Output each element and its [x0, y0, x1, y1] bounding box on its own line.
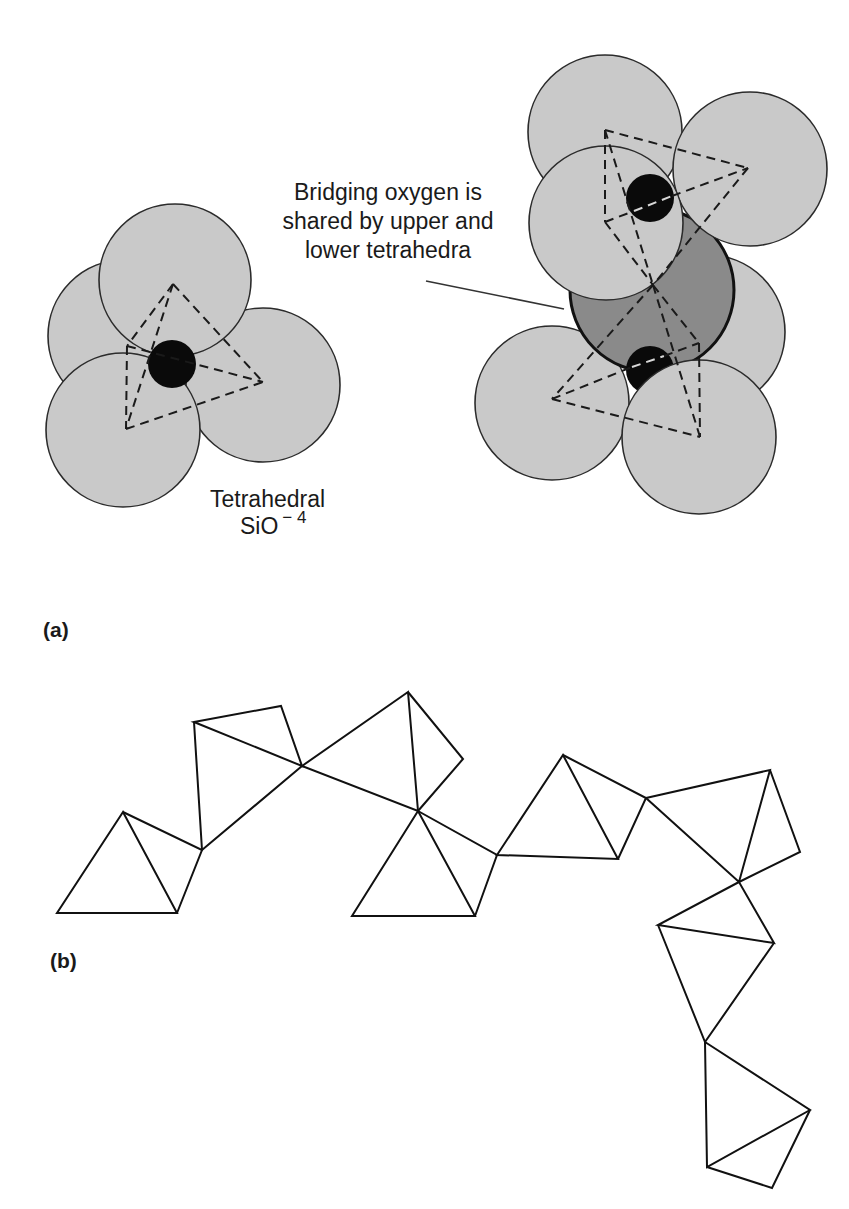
chain-tetrahedron-8	[705, 1042, 810, 1188]
panel-label-a: (a)	[43, 618, 69, 641]
formula-label: SiO− 4	[240, 508, 306, 539]
chain-tetrahedron-5	[497, 755, 646, 859]
annotation-line-2: shared by upper and	[283, 208, 494, 234]
leader-line	[426, 281, 564, 309]
chain-tetrahedron-1	[57, 812, 202, 913]
tetrahedra-chain	[57, 692, 810, 1188]
chain-tetrahedron-7	[658, 882, 774, 1042]
chain-tetrahedron-2	[194, 706, 302, 850]
bridging-oxygen-annotation: Bridging oxygen is shared by upper and l…	[283, 179, 565, 309]
single-tetrahedron: Tetrahedral SiO− 4	[46, 204, 340, 539]
chain-tetrahedron-3	[302, 692, 463, 811]
panel-label-b: (b)	[50, 949, 77, 972]
chain-tetrahedron-4	[352, 811, 497, 916]
oxygen-atom-upper-right	[673, 92, 827, 246]
chain-tetrahedron-6	[646, 770, 800, 882]
oxygen-atom-top	[99, 204, 251, 356]
tetrahedral-label: Tetrahedral	[210, 486, 325, 512]
bridged-tetrahedra-dimer	[475, 55, 827, 514]
annotation-line-1: Bridging oxygen is	[294, 179, 482, 205]
silicate-structure-figure: Tetrahedral SiO− 4	[0, 0, 849, 1209]
silicon-atom	[148, 340, 196, 388]
charge-superscript: − 4	[282, 508, 306, 527]
annotation-line-3: lower tetrahedra	[305, 237, 471, 263]
